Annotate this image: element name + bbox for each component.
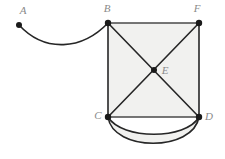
vertex-label-B: B — [104, 2, 111, 14]
vertex-label-C: C — [94, 109, 102, 121]
vertex-E[interactable] — [151, 67, 157, 73]
vertex-label-A: A — [19, 4, 27, 16]
vertex-label-E: E — [161, 64, 169, 76]
vertex-A[interactable] — [16, 22, 22, 28]
vertex-D[interactable] — [196, 114, 202, 120]
vertex-label-D: D — [204, 110, 213, 122]
graph-figure: ABFECD — [0, 0, 225, 159]
vertex-B[interactable] — [105, 20, 111, 26]
vertex-label-F: F — [193, 2, 201, 14]
vertex-C[interactable] — [105, 114, 111, 120]
graph-canvas: ABFECD — [0, 0, 225, 159]
vertex-F[interactable] — [196, 20, 202, 26]
